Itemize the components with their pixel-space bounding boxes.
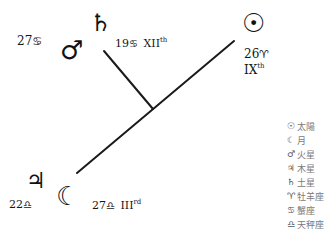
libra-sign-icon: ♎ [23,199,32,210]
legend-item-libra: ♎ 天秤座 [286,217,336,231]
saturn-position-label: 19♋ XIIth [115,38,167,49]
legend-item-cancer: ♋ 蟹座 [286,203,336,217]
aspect-diagram: 27♋ ♂ ♄ 19♋ XIIth ☉ 26♈ IXth ♃ 22♎ ☽ 27♎… [0,0,336,245]
cancer-sign-icon: ♋ [129,38,138,49]
mars-degree: 27 [17,34,32,48]
saturn-house: XII [143,37,160,50]
legend-label: 木星 [297,162,315,175]
sun-degree: 26 [244,47,259,61]
cancer-sign-icon: ♋ [32,35,42,48]
legend-item-sun: ☉ 太陽 [286,119,336,133]
legend-label: 火星 [297,148,315,161]
legend-item-jupiter: ♃ 木星 [286,161,336,175]
jupiter-position-label: 22♎ [9,199,32,210]
sun-icon: ☉ [242,10,265,36]
moon-position-label: 27♎ IIIrd [92,200,141,211]
main-axis-line [77,41,234,173]
sun-house-label: IXth [244,64,265,76]
moon-degree: 27 [92,199,106,212]
aries-icon: ♈ [286,191,296,201]
legend-label: 牡羊座 [297,190,324,203]
sun-house-suffix: th [257,62,264,70]
saturn-degree: 19 [115,37,129,50]
saturn-icon: ♄ [90,11,112,35]
jupiter-degree: 22 [9,198,23,211]
moon-icon: ☽ [56,183,79,209]
moon-symbol: ☽ [56,181,79,211]
moon-house-suffix: rd [134,198,142,206]
legend-label: 天秤座 [297,218,324,231]
legend-label: 土星 [297,176,315,189]
libra-sign-icon: ♎ [106,200,115,211]
jupiter-icon: ♃ [286,163,296,173]
saturn-branch-line [104,51,153,109]
moon-house: III [120,199,133,212]
symbol-legend: ☉ 太陽 ☽ 月 ♂ 火星 ♃ 木星 ♄ 土星 ♈ 牡羊座 ♋ 蟹座 ♎ 天秤座 [286,119,336,231]
legend-item-saturn: ♄ 土星 [286,175,336,189]
mars-icon: ♂ [286,149,296,159]
legend-item-mars: ♂ 火星 [286,147,336,161]
legend-item-moon: ☽ 月 [286,133,336,147]
mars-position-label: 27♋ [17,35,42,47]
legend-label: 蟹座 [297,204,315,217]
legend-item-aries: ♈ 牡羊座 [286,189,336,203]
sun-icon: ☉ [286,121,296,131]
legend-label: 太陽 [297,120,315,133]
moon-icon: ☽ [286,135,296,145]
cancer-icon: ♋ [286,205,296,215]
sun-house: IX [244,63,257,77]
saturn-icon: ♄ [286,177,296,187]
jupiter-icon: ♃ [26,170,46,192]
legend-label: 月 [297,134,306,147]
libra-icon: ♎ [286,219,296,229]
sun-position-label: 26♈ [244,48,269,60]
saturn-house-suffix: th [160,36,167,44]
mars-icon: ♂ [60,37,83,63]
aries-sign-icon: ♈ [259,48,269,61]
